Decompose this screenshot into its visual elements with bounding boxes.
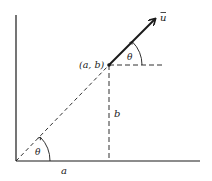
angle-theta-bottom-label: θ — [35, 147, 41, 157]
segment-b-label: b — [114, 108, 120, 119]
angle-theta-top-label: θ — [127, 52, 133, 62]
angle-arc-bottom — [41, 137, 51, 161]
angle-arc-bottom-arrow-icon — [38, 137, 41, 140]
vector-angle-diagram: u (a, b) θ b θ a — [0, 0, 212, 181]
point-ab-label: (a, b) — [79, 59, 104, 70]
angle-arc-top — [132, 42, 142, 65]
vector-u-label: u — [160, 12, 166, 23]
origin-to-point-dashed-line — [16, 65, 109, 161]
point-ab-dot — [107, 63, 111, 67]
segment-a-label: a — [61, 165, 67, 176]
